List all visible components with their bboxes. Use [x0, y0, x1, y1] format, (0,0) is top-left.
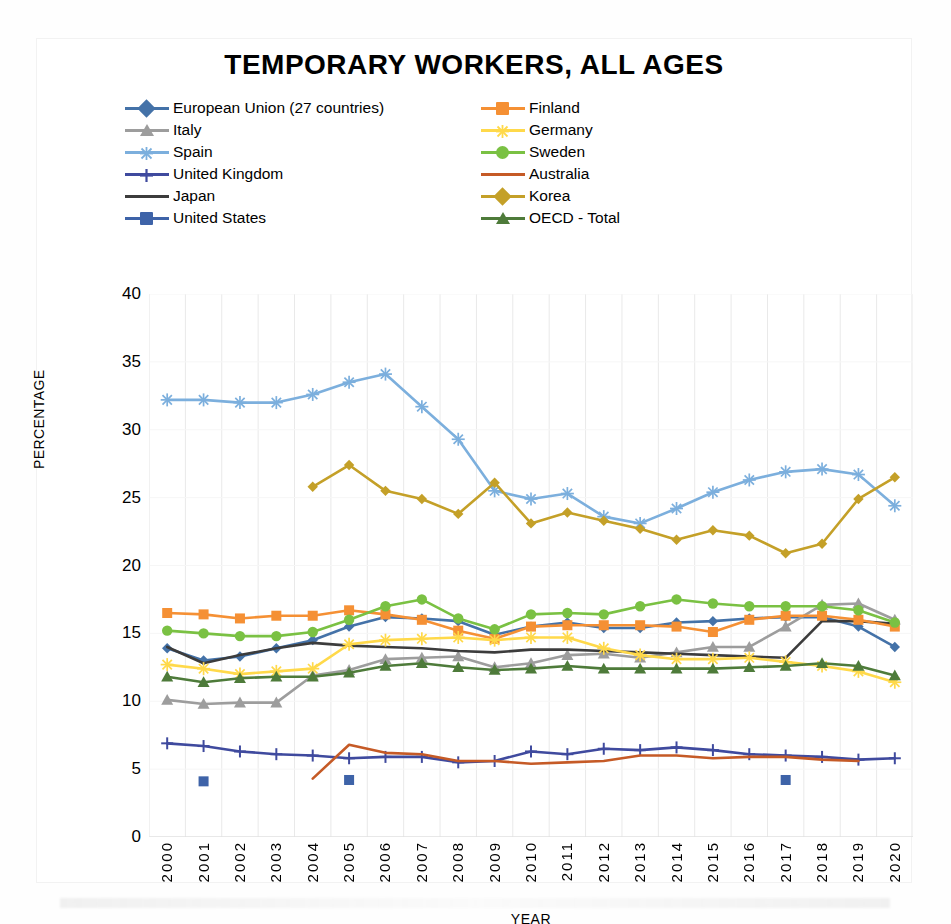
- x-tick-label: 2005: [340, 841, 358, 882]
- legend-item-united-states[interactable]: United States: [125, 207, 455, 229]
- y-tick-label: 20: [107, 557, 141, 574]
- legend-key: [481, 121, 525, 139]
- legend-key: [481, 99, 525, 117]
- x-tick-label: 2015: [704, 841, 722, 882]
- chart-legend: European Union (27 countries)FinlandItal…: [125, 97, 825, 229]
- x-tick-label: 2019: [849, 841, 867, 882]
- legend-label: Spain: [173, 144, 213, 160]
- series-united-states: [199, 775, 791, 786]
- x-tick-label: 2009: [486, 841, 504, 882]
- x-tick-label: 2012: [595, 841, 613, 882]
- legend-key: [125, 99, 169, 117]
- legend-item-european-union-27-countries[interactable]: European Union (27 countries): [125, 97, 455, 119]
- legend-item-oecd-total[interactable]: OECD - Total: [481, 207, 811, 229]
- legend-label: Italy: [173, 122, 201, 138]
- x-tick-label: 2017: [777, 841, 795, 882]
- y-tick-label: 40: [107, 285, 141, 302]
- y-tick-label: 15: [107, 624, 141, 641]
- y-tick-label: 35: [107, 353, 141, 370]
- legend-label: OECD - Total: [529, 210, 620, 226]
- y-tick-label: 0: [107, 828, 141, 845]
- chart-title: TEMPORARY WORKERS, ALL AGES: [37, 49, 911, 81]
- y-axis-tick-labels: 0510152025303540: [101, 294, 141, 837]
- x-tick-label: 2020: [886, 841, 904, 882]
- plot-svg: [149, 294, 913, 837]
- x-tick-label: 2013: [631, 841, 649, 882]
- legend-item-united-kingdom[interactable]: United Kingdom: [125, 163, 455, 185]
- legend-label: Japan: [173, 188, 215, 204]
- legend-label: Korea: [529, 188, 570, 204]
- bottom-caption: [150, 912, 930, 924]
- legend-key: [125, 121, 169, 139]
- legend-marker-triangle-icon: [140, 124, 154, 136]
- x-tick-label: 2004: [304, 841, 322, 882]
- x-tick-label: 2001: [195, 841, 213, 882]
- legend-marker-asterisk-icon: [140, 146, 153, 159]
- scan-artifact: [60, 898, 890, 908]
- x-tick-label: 2016: [740, 841, 758, 882]
- legend-item-italy[interactable]: Italy: [125, 119, 455, 141]
- y-axis-title: PERCENTAGE: [31, 370, 47, 469]
- x-tick-label: 2000: [158, 841, 176, 882]
- x-tick-label: 2002: [231, 841, 249, 882]
- legend-item-germany[interactable]: Germany: [481, 119, 811, 141]
- y-tick-label: 5: [107, 760, 141, 777]
- legend-key: [481, 187, 525, 205]
- legend-item-japan[interactable]: Japan: [125, 185, 455, 207]
- legend-key: [481, 165, 525, 183]
- legend-marker-diamond-icon: [137, 99, 155, 117]
- legend-marker-asterisk-icon: [496, 124, 509, 137]
- legend-label: United Kingdom: [173, 166, 283, 182]
- x-tick-label: 2006: [376, 841, 394, 882]
- x-tick-label: 2014: [668, 841, 686, 882]
- legend-line-swatch: [481, 173, 525, 176]
- legend-label: Finland: [529, 100, 580, 116]
- legend-label: Australia: [529, 166, 589, 182]
- x-tick-label: 2011: [558, 841, 576, 881]
- legend-marker-triangle-icon: [496, 212, 510, 224]
- legend-item-spain[interactable]: Spain: [125, 141, 455, 163]
- legend-marker-diamond-icon: [493, 187, 511, 205]
- series-spain: [161, 368, 902, 530]
- x-tick-label: 2018: [813, 841, 831, 882]
- legend-label: European Union (27 countries): [173, 100, 384, 116]
- legend-key: [125, 143, 169, 161]
- legend-key: [481, 209, 525, 227]
- legend-label: United States: [173, 210, 266, 226]
- legend-item-korea[interactable]: Korea: [481, 185, 811, 207]
- y-tick-label: 10: [107, 692, 141, 709]
- legend-item-sweden[interactable]: Sweden: [481, 141, 811, 163]
- x-tick-label: 2008: [449, 841, 467, 882]
- legend-key: [125, 209, 169, 227]
- x-tick-label: 2007: [413, 841, 431, 882]
- legend-line-swatch: [125, 195, 169, 198]
- legend-key: [481, 143, 525, 161]
- y-tick-label: 30: [107, 421, 141, 438]
- legend-marker-circle-icon: [496, 146, 509, 159]
- legend-item-australia[interactable]: Australia: [481, 163, 811, 185]
- x-tick-label: 2003: [267, 841, 285, 882]
- legend-key: [125, 187, 169, 205]
- chart-container: TEMPORARY WORKERS, ALL AGES European Uni…: [36, 38, 912, 883]
- legend-label: Sweden: [529, 144, 585, 160]
- legend-item-finland[interactable]: Finland: [481, 97, 811, 119]
- legend-key: [125, 165, 169, 183]
- series-korea: [308, 460, 900, 559]
- legend-marker-square-icon: [496, 102, 509, 115]
- plot-area: [149, 294, 913, 837]
- legend-marker-plus-icon: [140, 168, 153, 181]
- y-tick-label: 25: [107, 489, 141, 506]
- legend-marker-square-icon: [140, 212, 153, 225]
- legend-label: Germany: [529, 122, 593, 138]
- x-tick-label: 2010: [522, 841, 540, 882]
